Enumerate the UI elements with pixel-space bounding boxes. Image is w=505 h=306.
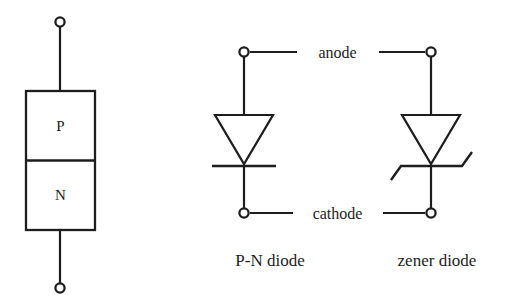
diode-figure: P N anode cathode <box>0 0 505 306</box>
n-region-label: N <box>55 187 66 203</box>
p-region-label: P <box>56 118 64 134</box>
cathode-row: cathode <box>239 205 435 222</box>
zener-diode-triangle-icon <box>402 115 460 164</box>
pn-diode-triangle-icon <box>215 115 273 164</box>
pn-block-bottom-terminal-icon <box>55 283 64 292</box>
zener-diode-anode-terminal-icon <box>426 47 435 56</box>
pn-diode-cathode-terminal-icon <box>239 208 248 217</box>
pn-diode-anode-terminal-icon <box>239 47 248 56</box>
zener-diode-cathode-terminal-icon <box>426 208 435 217</box>
pn-diode-symbol: P-N diode <box>212 57 305 270</box>
figure-canvas: P N anode cathode <box>0 0 505 306</box>
cathode-label: cathode <box>313 205 363 222</box>
anode-row: anode <box>239 44 435 61</box>
pn-block-top-terminal-icon <box>55 17 64 26</box>
anode-label: anode <box>318 44 356 61</box>
zener-diode-symbol: zener diode <box>391 57 476 270</box>
zener-diode-caption: zener diode <box>398 251 477 270</box>
pn-diode-caption: P-N diode <box>235 251 304 270</box>
pn-junction-block: P N <box>26 17 95 292</box>
